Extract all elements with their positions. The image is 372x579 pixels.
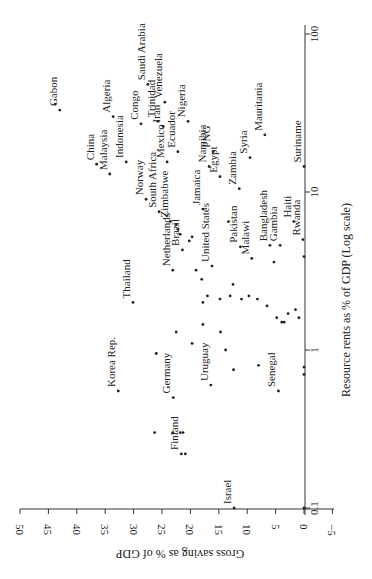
data-point [232, 368, 235, 371]
point-label: Algeria [100, 80, 112, 113]
data-point [201, 323, 204, 326]
point-label: Jamaica [190, 170, 202, 206]
x-axis-ticks: 0.1110100 [305, 25, 320, 515]
data-point [219, 175, 222, 178]
data-point [182, 431, 185, 434]
y-tick-label: 30 [128, 524, 140, 536]
point-label: Zambia [226, 151, 238, 185]
point-label: Malawi [239, 221, 251, 255]
y-tick-label: 15 [213, 524, 225, 536]
point-label: Indonesia [113, 115, 125, 158]
scatter-chart: 50454035302520151050−5 0.1110100 GabonCh… [0, 0, 372, 579]
x-tick-label: 10 [308, 186, 320, 198]
data-point [303, 366, 306, 369]
point-label: Brazil [169, 219, 181, 246]
point-label: Pakistan [227, 205, 239, 243]
data-point [108, 173, 111, 176]
data-point [248, 294, 251, 297]
data-point [269, 244, 272, 247]
point-label: Iran [150, 104, 162, 122]
data-point [125, 161, 128, 164]
point-label: Zimbabwe [158, 170, 170, 217]
data-point [294, 308, 297, 311]
data-point [219, 298, 222, 301]
point-labels: GabonChinaMalaysiaIndonesiaAlgeriaCongoS… [47, 23, 303, 504]
data-point [206, 294, 209, 297]
data-point [200, 278, 203, 281]
y-tick-label: −5 [326, 524, 338, 536]
data-point [229, 294, 232, 297]
point-label: Egypt [207, 146, 219, 172]
point-label: China [84, 134, 96, 160]
point-label: Ecuador [165, 111, 177, 148]
y-tick-label: 25 [156, 524, 168, 536]
data-point [257, 364, 260, 367]
data-point [287, 312, 290, 315]
point-label: Finland [168, 416, 180, 450]
data-point [303, 165, 306, 168]
data-point [201, 301, 204, 304]
y-axis-ticks: 50454035302520151050−5 [14, 509, 338, 536]
data-point [238, 187, 241, 190]
data-point [58, 109, 61, 112]
point-label: Suriname [291, 120, 303, 162]
data-point [277, 390, 280, 393]
data-point [195, 269, 198, 272]
point-label: Malaysia [97, 130, 109, 170]
data-point [132, 301, 135, 304]
point-label: Syria [237, 130, 249, 153]
data-point [184, 452, 187, 455]
data-point [303, 507, 306, 510]
data-point [250, 257, 253, 260]
data-point [224, 349, 227, 352]
y-tick-label: 35 [99, 524, 111, 536]
data-point [175, 331, 178, 334]
data-point [166, 161, 169, 164]
data-point [240, 298, 243, 301]
point-label: Uruguay [198, 342, 210, 381]
point-label: Nigeria [175, 84, 187, 117]
point-label: Rwanda [290, 199, 302, 235]
x-tick-label: 100 [308, 25, 320, 42]
point-label: Germany [160, 352, 172, 393]
data-point [297, 316, 300, 319]
y-tick-label: 40 [71, 524, 83, 536]
data-point [249, 156, 252, 159]
data-point [303, 373, 306, 376]
point-label: Gabon [47, 76, 59, 106]
point-label: Korea Rep. [105, 337, 117, 387]
data-point [187, 120, 190, 123]
point-label: Saudi Arabia [135, 23, 147, 80]
y-axis-title: Gross saving as % of GDP [116, 547, 245, 561]
y-tick-label: 0 [298, 524, 310, 530]
data-point [263, 133, 266, 136]
data-point [283, 321, 286, 324]
data-point [256, 298, 259, 301]
data-point [177, 150, 180, 153]
data-point [181, 249, 184, 252]
y-tick-label: 10 [241, 524, 253, 536]
point-label: Gambia [267, 206, 279, 241]
data-point [266, 305, 269, 308]
y-tick-label: 50 [14, 524, 26, 536]
data-point [211, 265, 214, 268]
data-point [209, 384, 212, 387]
x-axis-title: Resource rents as % of GDP (Log scale) [339, 203, 353, 397]
data-point [191, 235, 194, 238]
data-point [232, 283, 235, 286]
point-label: United States [199, 203, 211, 262]
point-label: Mauritania [252, 82, 264, 130]
data-point [303, 255, 306, 258]
data-point [180, 452, 183, 455]
data-point [140, 122, 143, 125]
data-point [172, 396, 175, 399]
data-point [171, 269, 174, 272]
point-label: Israel [221, 480, 233, 504]
data-point [272, 261, 275, 264]
data-point [188, 240, 191, 243]
point-label: Congo [128, 90, 140, 120]
y-tick-label: 45 [42, 524, 54, 536]
point-label: Thailand [120, 259, 132, 299]
y-tick-label: 5 [270, 524, 282, 530]
point-label: Senegal [265, 352, 277, 387]
